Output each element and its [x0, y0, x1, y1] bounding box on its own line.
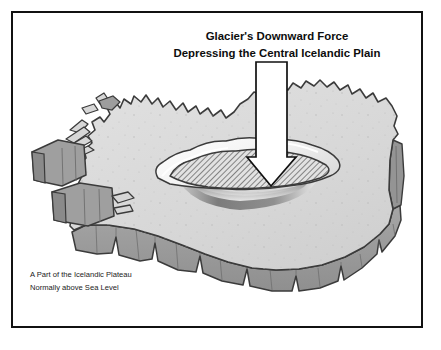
- diagram-title: Glacier's Downward Force Depressing the …: [174, 30, 381, 59]
- iceland-landmass: [32, 80, 404, 291]
- westfjords-block-lower: [52, 183, 114, 226]
- glacier-depression-diagram: Glacier's Downward Force Depressing the …: [0, 0, 441, 350]
- figure-root: Glacier's Downward Force Depressing the …: [0, 0, 441, 350]
- caption-line-1: A Part of the Icelandic Plateau: [30, 270, 132, 279]
- title-line-1: Glacier's Downward Force: [206, 30, 349, 42]
- title-line-2: Depressing the Central Icelandic Plain: [174, 47, 381, 59]
- plateau-caption: A Part of the Icelandic Plateau Normally…: [30, 270, 132, 292]
- westfjords-block-upper: [32, 140, 86, 186]
- caption-line-2: Normally above Sea Level: [30, 283, 119, 292]
